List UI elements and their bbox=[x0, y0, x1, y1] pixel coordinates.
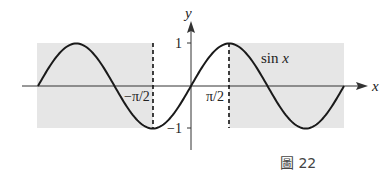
y-tick-neg-one: −1 bbox=[167, 121, 182, 136]
figure-caption: 圖 22 bbox=[280, 152, 316, 172]
curve-label: sin x bbox=[261, 50, 289, 66]
x-tick-neg-half-pi: −π/2 bbox=[124, 89, 150, 104]
x-tick-half-pi: π/2 bbox=[206, 89, 224, 104]
x-axis-label: x bbox=[371, 78, 379, 94]
y-axis-label: y bbox=[183, 5, 192, 21]
y-tick-one: 1 bbox=[175, 36, 182, 51]
sine-graph: y x 1 −1 −π/2 π/2 sin x bbox=[0, 0, 389, 187]
